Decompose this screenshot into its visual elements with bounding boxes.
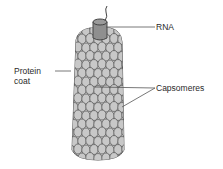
protein-coat-label-line2: coat: [14, 76, 30, 86]
rna-strand: [105, 6, 107, 21]
virus-diagram: RNA Protein coat Capsomeres: [0, 0, 223, 169]
capsomeres-label: Capsomeres: [156, 83, 204, 93]
capsomere-leader-line-2: [122, 88, 155, 107]
rna-cap: [93, 6, 107, 40]
rna-label: RNA: [156, 22, 174, 32]
protein-coat-label-line1: Protein: [14, 66, 41, 76]
protein-coat-body: [66, 25, 130, 164]
